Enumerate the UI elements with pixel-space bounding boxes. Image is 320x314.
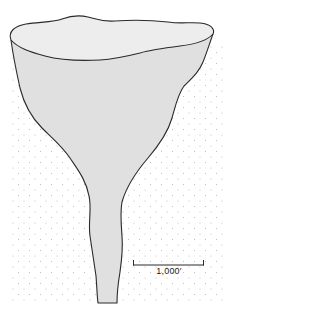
scale-bar-label: 1,000′ <box>146 266 192 276</box>
